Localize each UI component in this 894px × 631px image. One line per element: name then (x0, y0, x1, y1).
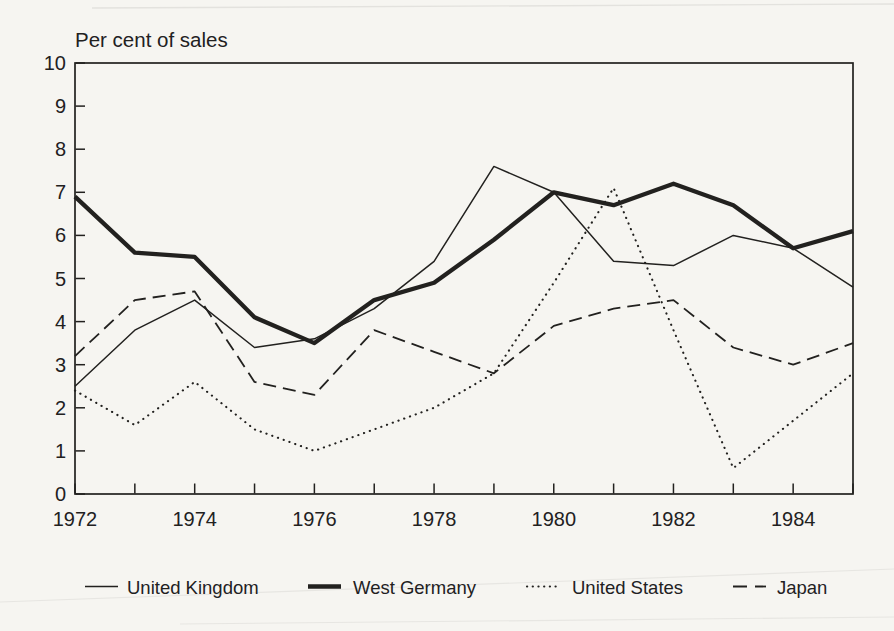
y-tick-label: 5 (55, 268, 66, 290)
y-tick-label: 10 (44, 52, 66, 74)
legend-label: West Germany (353, 577, 477, 598)
legend-label: Japan (777, 577, 827, 598)
legend-item-west-germany: West Germany (308, 577, 477, 598)
scanned-chart-page: 0123456789101972197419761978198019821984… (0, 0, 894, 631)
series-line-japan (75, 291, 853, 395)
x-tick-label: 1980 (532, 508, 577, 530)
legend-label: United States (572, 577, 683, 598)
x-tick-label: 1976 (292, 508, 337, 530)
legend-item-japan: Japan (733, 577, 827, 598)
series-line-united-states (75, 188, 853, 468)
plot-frame (75, 63, 853, 494)
y-tick-label: 1 (55, 440, 66, 462)
y-tick-label: 9 (55, 95, 66, 117)
x-tick-label: 1982 (651, 508, 696, 530)
x-tick-label: 1974 (172, 508, 217, 530)
legend-item-united-states: United States (527, 577, 683, 598)
y-tick-label: 4 (55, 311, 66, 333)
x-tick-label: 1972 (53, 508, 98, 530)
y-tick-label: 6 (55, 224, 66, 246)
scan-artifact-line (180, 617, 894, 624)
x-tick-label: 1978 (412, 508, 457, 530)
series-line-west-germany (75, 184, 853, 343)
x-tick-label: 1984 (771, 508, 816, 530)
series-line-united-kingdom (75, 166, 853, 386)
y-tick-label: 8 (55, 138, 66, 160)
y-tick-label: 3 (55, 354, 66, 376)
legend-item-united-kingdom: United Kingdom (85, 577, 259, 598)
y-tick-label: 0 (55, 483, 66, 505)
line-chart: 0123456789101972197419761978198019821984… (0, 0, 894, 631)
y-tick-label: 2 (55, 397, 66, 419)
scan-artifact-line (92, 4, 894, 8)
chart-title: Per cent of sales (75, 28, 228, 51)
legend-label: United Kingdom (127, 577, 259, 598)
y-tick-label: 7 (55, 181, 66, 203)
